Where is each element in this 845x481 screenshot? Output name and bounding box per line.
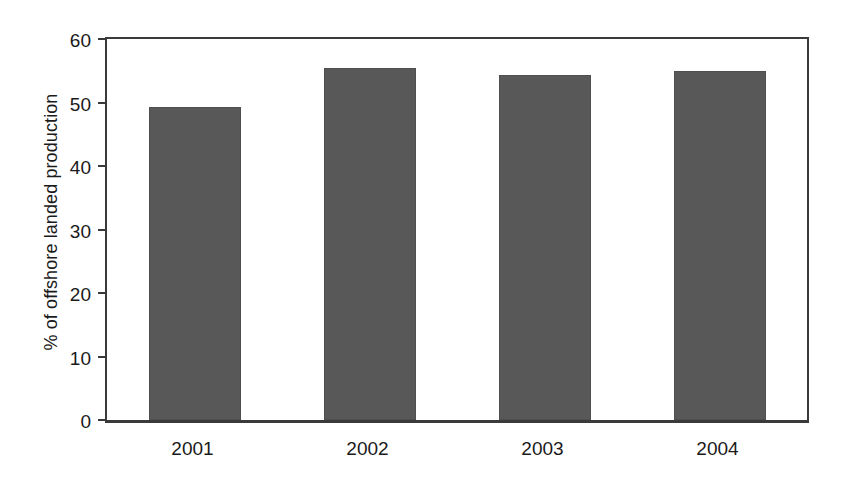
y-tick-label: 40 [70, 158, 91, 177]
y-tick-30: 30 [98, 229, 107, 231]
y-tick-label: 10 [70, 348, 91, 367]
x-axis-ticks: 2001200220032004 [105, 421, 805, 471]
y-tick-label: 30 [70, 221, 91, 240]
bars-layer [107, 39, 807, 420]
bar-chart-figure: % of offshore landed production 01020304… [0, 0, 845, 481]
x-tick-label-2002: 2002 [280, 439, 455, 458]
y-tick-60: 60 [98, 38, 107, 40]
y-tick-label: 60 [70, 31, 91, 50]
plot-area: 0102030405060 [105, 37, 809, 423]
x-tick-label-2003: 2003 [455, 439, 630, 458]
y-tick-20: 20 [98, 292, 107, 294]
x-tick-label-2001: 2001 [105, 439, 280, 458]
bar-2001 [149, 107, 241, 420]
y-tick-40: 40 [98, 165, 107, 167]
bar-2003 [499, 75, 591, 420]
y-tick-label: 0 [80, 412, 91, 431]
bar-2002 [324, 68, 416, 420]
y-axis-title: % of offshore landed production [34, 12, 68, 432]
bar-2004 [674, 71, 766, 420]
y-tick-50: 50 [98, 102, 107, 104]
y-tick-label: 50 [70, 94, 91, 113]
x-tick-label-2004: 2004 [630, 439, 805, 458]
y-tick-10: 10 [98, 356, 107, 358]
y-tick-label: 20 [70, 285, 91, 304]
